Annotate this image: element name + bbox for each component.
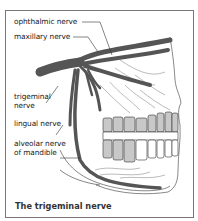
alveolar-nerve-label-line1: alveolar nerve (14, 140, 66, 148)
figure-caption: The trigeminal nerve (15, 201, 112, 211)
trigeminal-nerve-label-line1: trigeminal (14, 93, 51, 101)
ophthalmic-nerve-label: ophthalmic nerve (14, 18, 77, 26)
alveolar-nerve-label-line2: of mandible (14, 149, 57, 157)
trigeminal-nerve-label-line2: nerve (14, 102, 35, 110)
teeth (103, 112, 178, 162)
maxillary-nerve-label: maxillary nerve (14, 33, 70, 41)
lingual-nerve-label: lingual nerve (14, 120, 61, 128)
nerve-trunks (40, 40, 170, 188)
